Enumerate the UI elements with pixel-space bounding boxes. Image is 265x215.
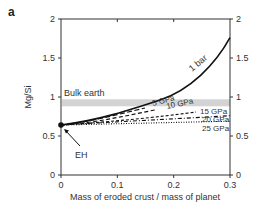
chart: a 0 0.5 1 1.5 2 0 0.5 1 1.5 2 0 0.1 0.2 … xyxy=(0,0,265,215)
x-tick: 0.3 xyxy=(224,180,237,190)
annotation-bulk-earth: Bulk earth xyxy=(64,88,105,98)
right-y-tick: 0 xyxy=(236,170,241,180)
right-y-tick: 0.5 xyxy=(236,131,249,141)
annotation-20gpa: 20 GPa xyxy=(202,115,230,124)
right-y-tick: 1.5 xyxy=(236,53,249,63)
eh-arrow xyxy=(65,130,80,146)
annotation-eh: EH xyxy=(75,150,88,160)
eh-point xyxy=(58,122,64,128)
x-axis-label: Mass of eroded crust / mass of planet xyxy=(70,192,221,202)
panel-label: a xyxy=(8,5,15,19)
y-axis-label: Mg/Si xyxy=(23,85,33,108)
x-tick: 0.1 xyxy=(111,180,124,190)
right-y-tick: 2 xyxy=(236,14,241,24)
y-tick: 0.5 xyxy=(42,131,55,141)
y-tick: 2 xyxy=(50,14,55,24)
annotation-25gpa: 25 GPa xyxy=(202,124,230,133)
right-y-tick: 1 xyxy=(236,92,241,102)
y-tick: 0 xyxy=(50,170,55,180)
y-tick: 1.5 xyxy=(42,53,55,63)
y-tick: 1 xyxy=(50,92,55,102)
x-tick: 0.2 xyxy=(167,180,180,190)
x-tick: 0 xyxy=(58,180,63,190)
